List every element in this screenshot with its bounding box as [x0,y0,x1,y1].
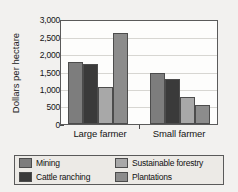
bar-group-large-farmer [67,21,129,124]
legend-label: Plantations [132,172,172,182]
legend-item-mining: Mining [19,156,115,170]
x-axis-label-small-farmer: Small farmer [140,128,218,139]
legend-label: Mining [36,158,60,168]
y-tick-label: 2,500 [22,33,60,43]
bar-group-small-farmer [149,21,211,124]
y-tick-mark [60,125,64,126]
y-tick-label: 2,000 [22,50,60,60]
legend-swatch-cattle-ranching-icon [19,172,32,182]
x-axis-label-large-farmer: Large farmer [60,128,140,139]
bar-mining-large-farmer [68,62,83,124]
legend-swatch-sustainable-forestry-icon [115,158,128,168]
bar-cattle-ranching-large-farmer [83,64,98,124]
y-tick-label: 0 [22,120,60,130]
bar-chart-figure: Dollars per hectare 3,000 2,500 2,000 1,… [0,0,238,192]
bar-sustainable-forestry-small-farmer [180,97,195,124]
legend-label: Sustainable forestry [132,158,203,168]
legend-item-sustainable-forestry: Sustainable forestry [115,156,227,170]
chart-legend: Mining Sustainable forestry Cattle ranch… [14,155,224,185]
legend-swatch-mining-icon [19,158,32,168]
bar-plantations-small-farmer [195,105,210,124]
bar-mining-small-farmer [150,73,165,125]
y-tick-label: 1,000 [22,85,60,95]
bar-sustainable-forestry-large-farmer [98,87,113,124]
bar-cattle-ranching-small-farmer [165,79,180,124]
plot-area [60,20,218,125]
y-axis-tick-labels: 3,000 2,500 2,000 1,500 1,000 500 0 [18,20,60,125]
bar-plantations-large-farmer [113,33,128,124]
y-tick-label: 3,000 [22,15,60,25]
legend-item-plantations: Plantations [115,170,227,184]
legend-swatch-plantations-icon [115,172,128,182]
legend-item-cattle-ranching: Cattle ranching [19,170,115,184]
legend-label: Cattle ranching [36,172,90,182]
y-tick-label: 500 [22,102,60,112]
y-tick-label: 1,500 [22,68,60,78]
